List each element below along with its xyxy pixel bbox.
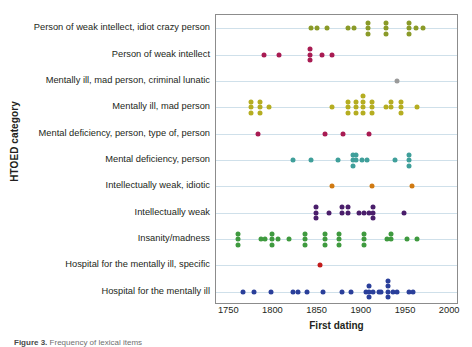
category-label: Person of weak intellect xyxy=(112,49,210,59)
data-point xyxy=(345,105,350,110)
data-point xyxy=(359,158,364,163)
data-point xyxy=(236,237,241,242)
data-point xyxy=(318,263,323,268)
data-point xyxy=(371,216,376,221)
y-axis-tick xyxy=(215,292,216,293)
gridline-row xyxy=(216,213,457,214)
caption-label: Figure 3. xyxy=(14,338,47,347)
data-point xyxy=(269,237,274,242)
data-point xyxy=(370,105,375,110)
data-point xyxy=(360,110,365,115)
data-point xyxy=(370,184,375,189)
data-point xyxy=(325,26,330,31)
x-axis-tick-label: 1900 xyxy=(350,305,371,315)
category-label: Insanity/madness xyxy=(138,233,210,243)
data-point xyxy=(365,20,370,25)
data-point xyxy=(420,26,425,31)
y-axis-tick xyxy=(215,28,216,29)
data-point xyxy=(269,231,274,236)
data-point xyxy=(345,26,350,31)
data-point xyxy=(327,210,332,215)
data-point xyxy=(370,110,375,115)
data-point xyxy=(366,284,371,289)
plot-area xyxy=(215,14,458,304)
category-label: Intellectually weak, idiotic xyxy=(106,180,210,190)
data-point xyxy=(263,237,268,242)
data-point xyxy=(395,289,400,294)
data-point xyxy=(307,52,312,57)
data-point xyxy=(307,58,312,63)
data-point xyxy=(413,26,418,31)
data-point xyxy=(388,237,393,242)
data-point xyxy=(236,242,241,247)
data-point xyxy=(258,110,263,115)
data-point xyxy=(406,20,411,25)
category-label: Intellectually weak xyxy=(135,207,210,217)
gridline-row xyxy=(216,186,457,187)
y-axis-tick xyxy=(215,239,216,240)
x-axis-title: First dating xyxy=(215,320,458,331)
data-point xyxy=(410,184,415,189)
data-point xyxy=(351,26,356,31)
data-point xyxy=(362,237,367,242)
figure-caption: Figure 3. Frequency of lexical items xyxy=(14,338,472,347)
data-point xyxy=(320,289,325,294)
data-point xyxy=(349,289,354,294)
y-axis-tick xyxy=(215,107,216,108)
y-axis-tick xyxy=(215,55,216,56)
data-point xyxy=(360,105,365,110)
data-point xyxy=(329,52,334,57)
data-point xyxy=(386,278,391,283)
data-point xyxy=(303,237,308,242)
data-point xyxy=(275,237,280,242)
data-point xyxy=(261,52,266,57)
data-point xyxy=(411,289,416,294)
data-point xyxy=(345,205,350,210)
data-point xyxy=(360,99,365,104)
data-point xyxy=(290,289,295,294)
data-point xyxy=(303,242,308,247)
data-point xyxy=(386,284,391,289)
data-point xyxy=(360,94,365,99)
y-axis-tick xyxy=(215,160,216,161)
data-point xyxy=(379,289,384,294)
data-point xyxy=(251,289,256,294)
gridline-row xyxy=(216,81,457,82)
data-point xyxy=(383,26,388,31)
data-point xyxy=(320,52,325,57)
data-point xyxy=(336,242,341,247)
data-point xyxy=(406,31,411,36)
data-point xyxy=(313,210,318,215)
data-point xyxy=(366,295,371,300)
data-point xyxy=(345,110,350,115)
x-axis-tick-label: 1950 xyxy=(395,305,416,315)
gridline-row xyxy=(216,55,457,56)
data-point xyxy=(340,289,345,294)
gridline-row xyxy=(216,265,457,266)
data-point xyxy=(386,295,391,300)
data-point xyxy=(314,26,319,31)
data-point xyxy=(353,152,358,157)
data-point xyxy=(350,163,355,168)
data-point xyxy=(371,289,376,294)
category-label: Mental deficiency, person xyxy=(105,154,210,164)
data-point xyxy=(398,99,403,104)
category-label: Mentally ill, mad person, criminal lunat… xyxy=(46,75,210,85)
data-point xyxy=(307,47,312,52)
data-point xyxy=(406,26,411,31)
data-point xyxy=(249,99,254,104)
data-point xyxy=(322,231,327,236)
data-point xyxy=(322,131,327,136)
data-point xyxy=(340,205,345,210)
data-point xyxy=(353,105,358,110)
y-axis-tick xyxy=(215,134,216,135)
data-point xyxy=(353,99,358,104)
data-point xyxy=(258,105,263,110)
data-point xyxy=(305,289,310,294)
data-point xyxy=(414,237,419,242)
category-labels: Person of weak intellect, idiot crazy pe… xyxy=(14,14,210,304)
x-axis-tick-label: 2000 xyxy=(439,305,460,315)
data-point xyxy=(365,26,370,31)
data-point xyxy=(345,99,350,104)
data-point xyxy=(402,210,407,215)
